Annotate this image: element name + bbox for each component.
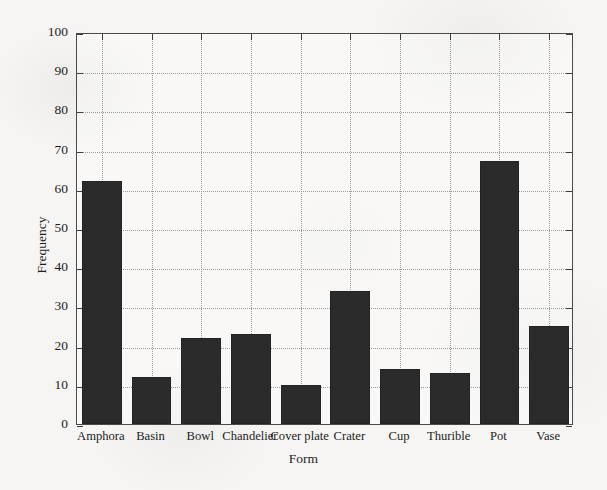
- x-tick-label: Cup: [389, 429, 410, 444]
- x-axis-title: Form: [0, 451, 607, 467]
- x-tick-mark: [102, 34, 103, 40]
- y-tick-mark: [566, 191, 572, 192]
- x-tick-label: Cover plate: [270, 429, 328, 444]
- x-tick-mark: [152, 34, 153, 40]
- y-tick-mark: [77, 34, 83, 35]
- y-tick-mark: [566, 308, 572, 309]
- bar: [380, 369, 420, 424]
- gridline-horizontal: [77, 152, 572, 153]
- bar: [480, 161, 520, 424]
- x-tick-label: Pot: [490, 429, 507, 444]
- y-tick-label: 10: [22, 377, 68, 393]
- y-tick-label: 90: [22, 63, 68, 79]
- y-tick-label: 100: [22, 24, 68, 40]
- x-tick-label: Crater: [334, 429, 365, 444]
- bar: [181, 338, 221, 424]
- y-tick-label: 50: [22, 220, 68, 236]
- y-tick-label: 30: [22, 298, 68, 314]
- y-tick-mark: [77, 152, 83, 153]
- gridline-horizontal: [77, 73, 572, 74]
- x-tick-mark: [400, 34, 401, 40]
- chart-page: Frequency 0102030405060708090100 Amphora…: [0, 0, 607, 490]
- gridline-vertical: [301, 34, 302, 424]
- bar: [82, 181, 122, 424]
- bar: [132, 377, 172, 424]
- x-tick-mark: [499, 34, 500, 40]
- bar: [430, 373, 470, 424]
- x-tick-mark: [301, 34, 302, 40]
- y-tick-label: 40: [22, 259, 68, 275]
- y-tick-mark: [566, 112, 572, 113]
- gridline-vertical: [400, 34, 401, 424]
- x-tick-mark: [450, 34, 451, 40]
- y-tick-mark: [566, 230, 572, 231]
- y-tick-mark: [566, 73, 572, 74]
- y-tick-label: 20: [22, 338, 68, 354]
- y-tick-label: 70: [22, 142, 68, 158]
- y-tick-mark: [77, 426, 83, 427]
- x-tick-label: Chandelier: [222, 429, 277, 444]
- bar: [529, 326, 569, 424]
- x-tick-label: Vase: [536, 429, 560, 444]
- x-tick-label: Thurible: [427, 429, 470, 444]
- y-tick-label: 0: [22, 416, 68, 432]
- x-tick-mark: [549, 34, 550, 40]
- x-tick-label: Amphora: [77, 429, 125, 444]
- plot-area: [76, 33, 573, 425]
- bar: [231, 334, 271, 424]
- y-tick-label: 80: [22, 102, 68, 118]
- y-tick-mark: [77, 112, 83, 113]
- y-tick-label: 60: [22, 181, 68, 197]
- x-tick-mark: [251, 34, 252, 40]
- gridline-vertical: [152, 34, 153, 424]
- y-tick-mark: [566, 152, 572, 153]
- x-tick-mark: [201, 34, 202, 40]
- x-tick-label: Basin: [136, 429, 165, 444]
- y-tick-mark: [77, 73, 83, 74]
- bar: [281, 385, 321, 424]
- gridline-vertical: [450, 34, 451, 424]
- y-tick-mark: [566, 269, 572, 270]
- x-tick-mark: [350, 34, 351, 40]
- y-tick-mark: [566, 426, 572, 427]
- gridline-horizontal: [77, 112, 572, 113]
- y-tick-mark: [566, 34, 572, 35]
- bar: [330, 291, 370, 424]
- x-tick-label: Bowl: [187, 429, 214, 444]
